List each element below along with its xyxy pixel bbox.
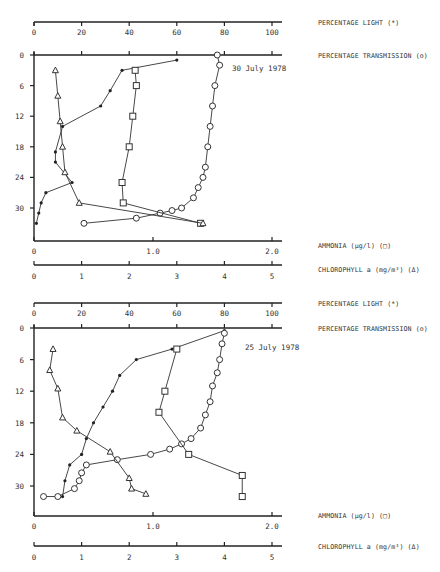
transmission-axis (34, 51, 282, 55)
tick-label: 20 (77, 309, 87, 318)
tick-label: 2 (127, 553, 132, 562)
square-marker (133, 83, 139, 89)
transmission-axis-label: PERCENTAGE TRANSMISSION (o) (318, 325, 428, 333)
triangle-marker (60, 144, 66, 150)
light-axis-ticks: 020406080100 (32, 22, 280, 37)
data-series (35, 52, 223, 226)
series-ammonia (119, 67, 204, 226)
square-marker (132, 67, 138, 73)
tick-label: 0 (32, 28, 37, 37)
triangle-marker (76, 200, 82, 206)
tick-label: 4 (222, 272, 227, 281)
tick-label: 4 (222, 553, 227, 562)
series-ammonia (156, 346, 245, 499)
depth-tick-label: 18 (15, 419, 25, 428)
tick-label: 0 (32, 247, 37, 256)
star-marker (135, 358, 138, 361)
star-marker (63, 479, 66, 482)
triangle-marker (57, 118, 63, 124)
square-marker (120, 200, 126, 206)
star-marker (68, 463, 71, 466)
depth-tick-label: 0 (19, 324, 24, 333)
tick-label: 60 (172, 309, 182, 318)
star-marker (80, 453, 83, 456)
star-marker (170, 347, 173, 350)
star-marker (61, 125, 64, 128)
panel-25-july: 020406080100 PERCENTAGE LIGHT (*) PERCEN… (15, 300, 428, 562)
depth-tick-label: 12 (15, 112, 24, 121)
circle-marker (81, 220, 87, 226)
star-marker (37, 212, 40, 215)
circle-marker (221, 330, 227, 336)
ammonia-axis-label: AMMONIA (µg/l) (□) (318, 242, 391, 250)
square-marker (156, 409, 162, 415)
star-marker (35, 222, 38, 225)
circle-marker (219, 341, 225, 347)
star-marker (54, 161, 57, 164)
series-percentage-light (61, 329, 226, 498)
circle-marker (148, 451, 154, 457)
square-marker (119, 180, 125, 186)
depth-tick-label: 6 (19, 356, 24, 365)
square-marker (162, 388, 168, 394)
ammonia-axis-label: AMMONIA (µg/l) (□) (318, 512, 391, 520)
series-chlorophyll-a (47, 346, 149, 496)
tick-label: 2.0 (265, 522, 279, 531)
circle-marker (79, 470, 85, 476)
light-axis-label: PERCENTAGE LIGHT (*) (318, 300, 399, 308)
panel-30-july: 020406080100 PERCENTAGE LIGHT (*) PERCEN… (15, 19, 428, 281)
circle-marker (207, 399, 213, 405)
star-marker (118, 374, 121, 377)
square-marker (186, 451, 192, 457)
tick-label: 5 (270, 272, 275, 281)
triangle-marker (47, 367, 53, 373)
tick-label: 0 (32, 272, 37, 281)
tick-label: 5 (270, 553, 275, 562)
star-marker (99, 104, 102, 107)
star-marker (111, 390, 114, 393)
circle-marker (214, 52, 220, 58)
tick-label: 0 (32, 522, 37, 531)
star-marker (92, 421, 95, 424)
ammonia-axis: 01.02.0 (32, 237, 282, 256)
star-marker (54, 150, 57, 153)
depth-tick-label: 0 (19, 51, 24, 60)
triangle-marker (55, 93, 61, 99)
circle-marker (205, 144, 211, 150)
series-percentage-transmission (41, 330, 228, 499)
depth-tick-label: 12 (15, 387, 24, 396)
tick-label: 2 (127, 272, 132, 281)
panel-date: 30 July 1978 (232, 64, 287, 73)
star-marker (70, 181, 73, 184)
tick-label: 0 (32, 553, 37, 562)
circle-marker (217, 357, 223, 363)
depth-tick-label: 30 (15, 482, 25, 491)
tick-label: 3 (175, 272, 180, 281)
square-marker (239, 472, 245, 478)
tick-label: 1.0 (146, 522, 160, 531)
tick-label: 100 (265, 309, 279, 318)
depth-tick-label: 24 (15, 450, 25, 459)
circle-marker (210, 383, 216, 389)
triangle-marker (50, 346, 56, 352)
circle-marker (71, 486, 77, 492)
depth-axis: 0612182430 (15, 51, 34, 241)
tick-label: 60 (172, 28, 182, 37)
transmission-axis-label: PERCENTAGE TRANSMISSION (o) (318, 52, 428, 60)
tick-label: 1 (79, 272, 84, 281)
circle-marker (212, 83, 218, 89)
circle-marker (190, 195, 196, 201)
depth-tick-label: 30 (15, 204, 25, 213)
triangle-marker (55, 385, 61, 391)
circle-marker (198, 425, 204, 431)
chart-canvas: 020406080100 PERCENTAGE LIGHT (*) PERCEN… (0, 0, 440, 572)
circle-marker (202, 164, 208, 170)
chlorophyll-axis: 012345 (32, 261, 282, 281)
depth-axis: 0612182430 (15, 324, 34, 516)
circle-marker (217, 62, 223, 68)
light-axis: 020406080100 (32, 22, 282, 37)
tick-label: 0 (32, 309, 37, 318)
star-marker (101, 405, 104, 408)
circle-marker (41, 494, 47, 500)
triangle-marker (60, 414, 66, 420)
